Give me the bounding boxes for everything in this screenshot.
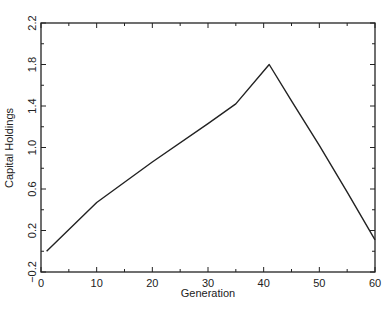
y-tick-label: −0.2 <box>26 261 38 283</box>
y-tick-label: 2.2 <box>26 15 38 30</box>
y-tick-label: 0.6 <box>26 181 38 196</box>
line-chart: 0102030405060 −0.20.20.61.01.41.82.2 Gen… <box>0 0 390 316</box>
x-tick-label: 40 <box>258 277 270 289</box>
x-tick-label: 10 <box>91 277 103 289</box>
y-tick-label: 1.8 <box>26 57 38 72</box>
x-tick-label: 60 <box>369 277 381 289</box>
plot-frame <box>41 23 375 272</box>
y-tick-label: 0.2 <box>26 223 38 238</box>
y-tick-label: 1.0 <box>26 140 38 155</box>
x-axis-ticks <box>41 23 375 272</box>
x-axis-title: Generation <box>181 287 235 299</box>
x-tick-label: 50 <box>313 277 325 289</box>
x-tick-label: 20 <box>146 277 158 289</box>
y-axis-tick-labels: −0.20.20.61.01.41.82.2 <box>26 15 38 283</box>
y-tick-label: 1.4 <box>26 98 38 113</box>
y-axis-title: Capital Holdings <box>3 107 15 188</box>
x-tick-label: 0 <box>38 277 44 289</box>
data-line <box>47 65 375 252</box>
y-axis-ticks <box>41 23 375 272</box>
